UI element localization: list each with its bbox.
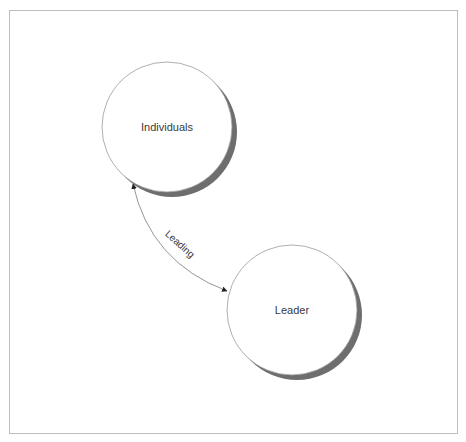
node-label-leader: Leader: [275, 304, 309, 316]
node-label-individuals: Individuals: [141, 121, 193, 133]
diagram-canvas: [0, 0, 466, 442]
